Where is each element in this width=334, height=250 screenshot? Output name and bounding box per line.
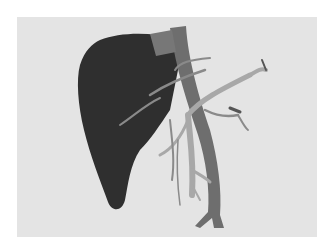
vena-cava — [170, 26, 224, 228]
liver-vasculature-render — [0, 0, 334, 250]
liver-shape — [78, 34, 178, 210]
